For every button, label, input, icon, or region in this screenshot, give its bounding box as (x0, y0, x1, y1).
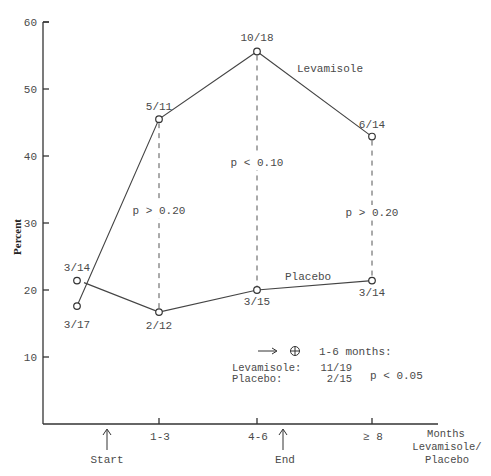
point-label-placebo: 3/15 (244, 296, 270, 308)
y-tick-label: 40 (24, 151, 37, 163)
point-label-levamisole: 6/14 (359, 119, 386, 131)
p-value-label: p > 0.20 (346, 207, 399, 219)
x-tick-label: 1-3 (150, 431, 170, 443)
x-tick-label: 4-6 (248, 431, 268, 443)
summary-group-placebo: Placebo: (232, 373, 282, 385)
series-line-placebo (84, 281, 372, 312)
point-label-levamisole: 5/11 (146, 101, 173, 113)
data-point-placebo (369, 277, 376, 284)
point-label-levamisole: 3/17 (64, 319, 90, 331)
point-label-placebo: 2/12 (146, 320, 172, 332)
data-point-levamisole (254, 48, 261, 55)
p-value-label: p > 0.20 (133, 205, 186, 217)
y-tick-label: 20 (24, 285, 37, 297)
end-marker: End (275, 429, 295, 466)
y-tick-label: 50 (24, 84, 37, 96)
x-tick-label: ≥ 8 (363, 431, 383, 443)
data-point-levamisole (156, 116, 163, 123)
end-label: End (275, 454, 295, 466)
data-point-levamisole (74, 303, 81, 310)
chart: 102030405060 1-34-6≥ 8 3/175/1110/186/14… (0, 0, 491, 476)
y-tick-label: 30 (24, 218, 37, 230)
data-point-levamisole (369, 133, 376, 140)
y-tick-label: 60 (24, 17, 37, 29)
start-label: Start (90, 454, 123, 466)
start-marker: Start (90, 429, 123, 466)
series-label-placebo: Placebo (285, 271, 331, 283)
x-axis-label-line-1: Months (427, 428, 465, 440)
point-label-placebo: 3/14 (359, 287, 386, 299)
data-point-placebo (156, 309, 163, 316)
x-axis-label-line-3: Placebo (425, 454, 469, 466)
summary-annotation: 1-6 months: Levamisole: 11/19 Placebo: 2… (232, 346, 423, 385)
p-value-label: p < 0.10 (231, 157, 284, 169)
y-axis-label: Percent (11, 219, 23, 255)
point-label-placebo: 3/14 (64, 262, 91, 274)
data-point-placebo (254, 287, 261, 294)
data-point-placebo (74, 277, 81, 284)
circled-plus-icon (291, 347, 300, 356)
y-tick-label: 10 (24, 352, 37, 364)
series-line-levamisole (77, 51, 372, 306)
summary-heading: 1-6 months: (319, 346, 392, 358)
summary-value-placebo: 2/15 (327, 373, 352, 385)
series-label-levamisole: Levamisole (297, 63, 363, 75)
x-axis-label-line-2: Levamisole/ (412, 441, 481, 453)
point-label-levamisole: 10/18 (240, 32, 273, 44)
summary-p-value: p < 0.05 (370, 370, 423, 382)
